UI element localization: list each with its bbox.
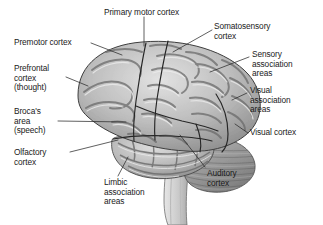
label-primary-motor-cortex: Primary motor cortex: [104, 8, 179, 18]
label-somatosensory-cortex: Somatosensory cortex: [214, 22, 270, 41]
label-olfactory-cortex: Olfactory cortex: [14, 148, 46, 167]
label-prefrontal-cortex: Prefrontal cortex (thought): [14, 64, 49, 93]
label-auditory-cortex: Auditory cortex: [207, 169, 237, 188]
label-limbic-association-areas: Limbic association areas: [104, 178, 144, 207]
label-sensory-association-areas: Sensory association areas: [252, 50, 292, 79]
label-visual-cortex: Visual cortex: [250, 128, 296, 138]
cerebral-cortex: [78, 41, 260, 152]
label-visual-association-areas: Visual association areas: [250, 86, 290, 115]
brain-anatomy-figure: Primary motor cortex Somatosensory corte…: [0, 0, 323, 225]
label-brocas-area: Broca's area (speech): [14, 107, 45, 136]
leader-olfactory: [70, 140, 118, 152]
label-premotor-cortex: Premotor cortex: [14, 38, 72, 48]
